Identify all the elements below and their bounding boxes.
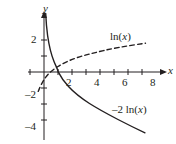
x-tick-label-2: 2 <box>66 77 72 88</box>
y-axis <box>41 11 47 140</box>
curve-label-ln-x-prefix: ln( <box>110 30 122 42</box>
curve-label-neg2-ln-x: –2 ln(x) <box>112 104 147 115</box>
y-tick-label-minus-2: –2 <box>25 89 36 100</box>
y-tick-label-minus-4: –4 <box>25 121 36 132</box>
logarithm-graph-figure: y x 2 –2 –4 2 4 6 8 ln(x) –2 ln(x) <box>0 0 176 144</box>
x-tick-label-4: 4 <box>94 77 100 88</box>
curve-label-neg2-ln-x-suffix: ) <box>143 103 147 115</box>
curve-ln-x <box>38 43 145 91</box>
y-tick-label-2: 2 <box>31 34 37 45</box>
x-axis-label: x <box>168 65 173 76</box>
y-axis-label: y <box>43 3 48 14</box>
curve-label-neg2-ln-x-prefix: –2 ln( <box>112 103 138 115</box>
curve-label-ln-x-suffix: ) <box>127 30 131 42</box>
curve-label-ln-x: ln(x) <box>110 31 131 42</box>
x-tick-label-6: 6 <box>122 77 128 88</box>
x-tick-label-8: 8 <box>150 77 156 88</box>
